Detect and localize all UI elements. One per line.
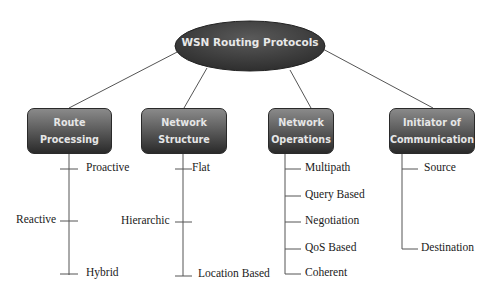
leaf-destination: Destination: [421, 241, 474, 253]
leaf-qos-based: QoS Based: [305, 241, 356, 253]
category-label-line1: Initiator of: [390, 114, 474, 131]
leaf-hybrid: Hybrid: [86, 266, 119, 278]
leaf-query-based: Query Based: [305, 188, 365, 200]
leaf-source: Source: [424, 161, 456, 173]
leaf-location-based: Location Based: [198, 267, 270, 279]
root-node-label: WSN Routing Protocols: [175, 36, 325, 48]
category-label-line2: Processing: [40, 131, 99, 148]
category-initiator-of-communication: Initiator ofCommunication: [389, 108, 475, 154]
category-label-line1: Network: [158, 114, 209, 131]
leaf-hierarchic: Hierarchic: [121, 214, 170, 226]
leaf-proactive: Proactive: [86, 161, 129, 173]
leaf-negotiation: Negotiation: [305, 214, 359, 226]
leaf-flat: Flat: [192, 161, 210, 173]
category-network-structure: NetworkStructure: [141, 108, 227, 154]
wsn-routing-diagram: WSN Routing Protocols RouteProcessing Ne…: [0, 0, 491, 294]
category-label-line1: Route: [40, 114, 99, 131]
category-label-line2: Structure: [158, 131, 209, 148]
leaf-reactive: Reactive: [16, 213, 56, 225]
category-network-operations: NetworkOperations: [268, 108, 334, 154]
leaf-multipath: Multipath: [305, 161, 350, 173]
category-label-line2: Communication: [390, 131, 474, 148]
category-label-line1: Network: [271, 114, 331, 131]
category-route-processing: RouteProcessing: [27, 108, 112, 154]
leaf-coherent: Coherent: [305, 266, 347, 278]
category-label-line2: Operations: [271, 131, 331, 148]
